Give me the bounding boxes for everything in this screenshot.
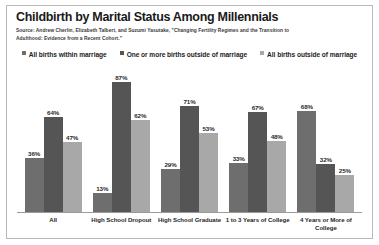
bar-value-label: 29%	[164, 161, 176, 168]
bar-slot: 64%	[44, 63, 63, 212]
bar-slot: 68%	[297, 63, 316, 212]
bar[interactable]	[131, 120, 150, 212]
legend-item-label: All births outside of marriage	[267, 51, 357, 58]
bar-slot: 36%	[25, 63, 44, 212]
bar-slot: 87%	[112, 63, 131, 212]
legend-item[interactable]: All births within marriage	[22, 51, 107, 58]
bar-group: 36%64%47%	[19, 63, 87, 212]
bar-slot: 32%	[316, 63, 335, 212]
bar-group: 68%32%25%	[292, 63, 360, 212]
bar[interactable]	[93, 193, 112, 212]
bar[interactable]	[229, 163, 248, 212]
bar[interactable]	[161, 169, 180, 212]
bar-value-label: 87%	[115, 74, 127, 81]
bar-value-label: 25%	[339, 167, 351, 174]
bar-slot: 33%	[229, 63, 248, 212]
bar[interactable]	[180, 106, 199, 212]
chart-frame: Childbirth by Marital Status Among Mille…	[6, 5, 373, 239]
bar-value-label: 68%	[301, 103, 313, 110]
legend-swatch-icon	[260, 51, 264, 55]
bar[interactable]	[248, 112, 267, 212]
bars-region: 36%64%47%13%87%62%29%71%53%33%67%48%68%3…	[17, 63, 362, 213]
bar[interactable]	[25, 158, 44, 212]
legend-swatch-icon	[22, 51, 26, 55]
category-axis: AllHigh School DropoutHigh School Gradua…	[17, 213, 362, 238]
bar-slot: 25%	[335, 63, 354, 212]
bar-slot: 62%	[131, 63, 150, 212]
category-label: All	[19, 216, 87, 238]
bar-slot: 67%	[248, 63, 267, 212]
bar-group: 13%87%62%	[87, 63, 155, 212]
bar-value-label: 67%	[252, 104, 264, 111]
chart-source-note: Source: Andrew Cherlin, Elizabeth Talber…	[16, 27, 306, 42]
bar-slot: 13%	[93, 63, 112, 212]
bar-group: 33%67%48%	[224, 63, 292, 212]
legend-item[interactable]: All births outside of marriage	[260, 51, 357, 58]
bar[interactable]	[112, 82, 131, 212]
bar[interactable]	[335, 175, 354, 212]
bar-value-label: 33%	[233, 155, 245, 162]
bar-value-label: 47%	[66, 134, 78, 141]
bar[interactable]	[316, 164, 335, 212]
bar-value-label: 48%	[271, 133, 283, 140]
legend-item-label: All births within marriage	[29, 51, 107, 58]
chart-legend: All births within marriageOne or more bi…	[7, 51, 372, 58]
bar-slot: 29%	[161, 63, 180, 212]
bar[interactable]	[297, 111, 316, 212]
category-label: 4 Years or More of College	[292, 216, 360, 238]
bar-value-label: 13%	[96, 185, 108, 192]
bar-value-label: 62%	[134, 112, 146, 119]
bar-value-label: 32%	[320, 156, 332, 163]
legend-item-label: One or more births outside of marriage	[127, 51, 247, 58]
bar-value-label: 53%	[202, 125, 214, 132]
chart-header: Childbirth by Marital Status Among Mille…	[7, 6, 372, 42]
category-label: High School Graduate	[155, 216, 223, 238]
bar-value-label: 71%	[183, 98, 195, 105]
bar[interactable]	[44, 117, 63, 212]
bar-slot: 53%	[199, 63, 218, 212]
bar[interactable]	[63, 142, 82, 212]
chart-plot-area: 36%64%47%13%87%62%29%71%53%33%67%48%68%3…	[17, 63, 362, 238]
bar-value-label: 36%	[28, 150, 40, 157]
bar-slot: 47%	[63, 63, 82, 212]
bar-slot: 71%	[180, 63, 199, 212]
chart-figure: Childbirth by Marital Status Among Mille…	[0, 0, 379, 245]
legend-swatch-icon	[120, 51, 124, 55]
bar-group: 29%71%53%	[155, 63, 223, 212]
category-label: High School Dropout	[87, 216, 155, 238]
bar[interactable]	[199, 133, 218, 212]
category-label: 1 to 3 Years of College	[224, 216, 292, 238]
bar-value-label: 64%	[47, 109, 59, 116]
bar[interactable]	[267, 141, 286, 213]
bar-slot: 48%	[267, 63, 286, 212]
chart-title: Childbirth by Marital Status Among Mille…	[16, 11, 363, 24]
legend-item[interactable]: One or more births outside of marriage	[120, 51, 247, 58]
